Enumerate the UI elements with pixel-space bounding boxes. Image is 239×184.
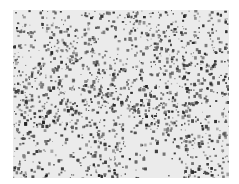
speckle-texture [13,10,229,178]
speckle-photo [13,10,229,178]
